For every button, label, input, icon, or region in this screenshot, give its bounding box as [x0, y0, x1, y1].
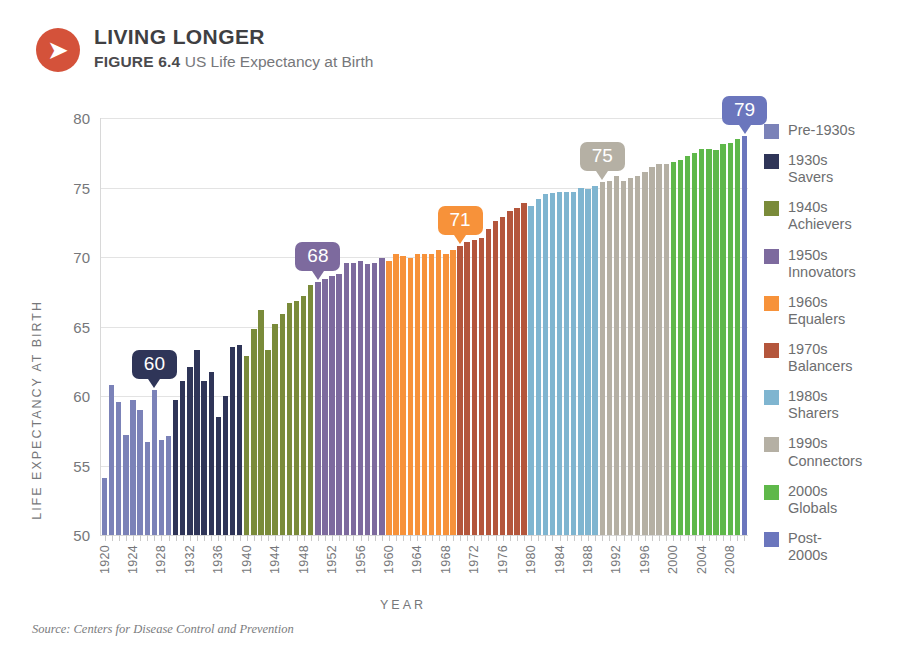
- callout-pointer: [312, 271, 324, 280]
- x-axis-tick: [233, 535, 234, 541]
- x-axis-tick: [567, 535, 568, 541]
- bar: [123, 435, 128, 535]
- arrow-glyph: ➤: [36, 28, 80, 72]
- bar: [728, 143, 733, 535]
- x-axis-tick: [169, 535, 170, 541]
- x-axis-tick-label: 1928: [154, 545, 168, 574]
- bar: [585, 189, 590, 535]
- bar: [180, 381, 185, 535]
- bar: [521, 203, 526, 535]
- x-axis-tick-label: 1952: [325, 545, 339, 574]
- bar: [280, 314, 285, 535]
- x-axis-tick: [353, 535, 354, 541]
- legend-label: 2000s Globals: [788, 483, 837, 517]
- legend-swatch-icon: [764, 296, 779, 311]
- x-axis-tick: [403, 535, 404, 541]
- x-axis-tick: [112, 535, 113, 541]
- x-axis-tick: [659, 535, 660, 541]
- legend-swatch-icon: [764, 154, 779, 169]
- x-axis-tick: [730, 535, 731, 541]
- bar: [301, 296, 306, 535]
- legend-item-1980s[interactable]: 1980s Sharers: [764, 388, 894, 422]
- bar: [500, 217, 505, 535]
- figure-subtitle: FIGURE 6.4 US Life Expectancy at Birth: [94, 53, 373, 71]
- bar: [400, 256, 405, 535]
- x-axis-tick: [311, 535, 312, 541]
- figure-header: ➤ LIVING LONGER FIGURE 6.4 US Life Expec…: [36, 26, 373, 72]
- bar: [102, 478, 107, 535]
- bar: [265, 350, 270, 535]
- bar: [351, 263, 356, 535]
- bar: [656, 164, 661, 535]
- legend-swatch-icon: [764, 485, 779, 500]
- x-axis-tick: [332, 535, 333, 541]
- bar: [244, 356, 249, 535]
- bar: [230, 347, 235, 535]
- bar: [329, 276, 334, 535]
- bar: [408, 258, 413, 535]
- x-axis-tick: [744, 535, 745, 541]
- bar: [287, 303, 292, 535]
- x-axis-tick: [524, 535, 525, 541]
- bar: [479, 238, 484, 535]
- x-axis-tick-label: 1996: [638, 545, 652, 574]
- bar: [237, 345, 242, 535]
- x-axis-tick: [211, 535, 212, 541]
- legend-item-post-2000s[interactable]: Post- 2000s: [764, 530, 894, 564]
- bar: [415, 254, 420, 535]
- x-axis-tick: [737, 535, 738, 541]
- bar: [457, 246, 462, 535]
- legend-item-2000s[interactable]: 2000s Globals: [764, 483, 894, 517]
- x-axis-tick: [289, 535, 290, 541]
- bar: [201, 381, 206, 535]
- bar: [137, 410, 142, 535]
- x-axis-tick: [297, 535, 298, 541]
- legend: Pre-1930s1930s Savers1940s Achievers1950…: [764, 122, 894, 577]
- x-axis-tick-label: 1960: [382, 545, 396, 574]
- legend-label: 1950s Innovators: [788, 247, 856, 281]
- x-axis-tick: [105, 535, 106, 541]
- x-axis-tick-label: 1944: [268, 545, 282, 574]
- x-axis-tick: [161, 535, 162, 541]
- bar: [130, 400, 135, 535]
- x-axis-tick-label: 1932: [183, 545, 197, 574]
- bar: [251, 329, 256, 535]
- legend-item-1970s[interactable]: 1970s Balancers: [764, 341, 894, 375]
- legend-item-1930s[interactable]: 1930s Savers: [764, 152, 894, 186]
- x-axis-tick: [154, 535, 155, 541]
- bar: [671, 162, 676, 535]
- x-axis-tick: [254, 535, 255, 541]
- x-axis-tick: [183, 535, 184, 541]
- callout-71: 71: [438, 206, 483, 235]
- legend-item-1950s[interactable]: 1950s Innovators: [764, 247, 894, 281]
- bar: [166, 436, 171, 535]
- legend-item-pre-1930s[interactable]: Pre-1930s: [764, 122, 894, 139]
- legend-item-1960s[interactable]: 1960s Equalers: [764, 294, 894, 328]
- bar: [187, 367, 192, 535]
- x-axis-tick: [666, 535, 667, 541]
- callout-pointer: [739, 125, 751, 134]
- legend-swatch-icon: [764, 390, 779, 405]
- x-axis-tick: [560, 535, 561, 541]
- x-axis-tick: [204, 535, 205, 541]
- x-axis-tick-label: 1936: [211, 545, 225, 574]
- x-axis-tick: [417, 535, 418, 541]
- x-axis-tick: [538, 535, 539, 541]
- x-axis-tick: [517, 535, 518, 541]
- legend-item-1940s[interactable]: 1940s Achievers: [764, 199, 894, 233]
- bar: [571, 192, 576, 535]
- bar: [358, 261, 363, 535]
- x-axis-tick: [595, 535, 596, 541]
- bar: [528, 206, 533, 535]
- bar: [472, 240, 477, 535]
- x-axis-tick-label: 1920: [98, 545, 112, 574]
- bar: [336, 274, 341, 535]
- x-axis-tick: [396, 535, 397, 541]
- legend-item-1990s[interactable]: 1990s Connectors: [764, 435, 894, 469]
- arrow-right-circle-icon: ➤: [36, 28, 80, 72]
- x-axis-tick: [261, 535, 262, 541]
- x-axis-tick: [453, 535, 454, 541]
- bar: [322, 279, 327, 535]
- x-axis-tick: [197, 535, 198, 541]
- legend-label: 1960s Equalers: [788, 294, 845, 328]
